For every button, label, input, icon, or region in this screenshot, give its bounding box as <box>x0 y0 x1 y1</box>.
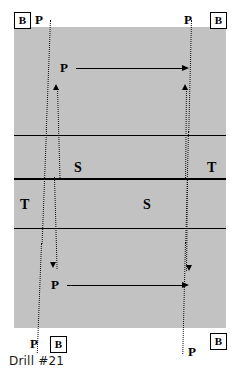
pass-arrow-lower-line <box>67 285 184 286</box>
player-label-top-left: P <box>35 13 43 26</box>
player-label-lower-pass: P <box>51 278 59 291</box>
pass-arrow-upper-line <box>76 68 184 69</box>
zone-line-lower <box>14 228 226 229</box>
run-arrowhead-right-down <box>186 265 192 271</box>
pass-arrow-upper-head <box>182 65 189 71</box>
run-arrowhead-right-up <box>182 84 188 90</box>
run-arrowhead-left-up <box>53 84 59 90</box>
zone-label-s-upper: S <box>74 161 82 175</box>
player-label-bottom-left: P <box>30 337 38 350</box>
player-label-bottom-right: P <box>188 345 196 358</box>
zone-label-s-lower: S <box>143 198 151 212</box>
zone-label-t-upper: T <box>207 161 216 175</box>
base-marker-bottom-left: B <box>50 336 67 353</box>
zone-line-center <box>14 178 226 180</box>
diagram-caption: Drill #21 <box>9 354 64 368</box>
run-arrowhead-left-down <box>50 262 56 268</box>
pass-arrow-lower-head <box>182 282 189 288</box>
zone-label-t-lower: T <box>20 198 29 212</box>
player-label-top-right: P <box>184 13 192 26</box>
player-label-upper-pass: P <box>60 61 68 74</box>
drill-diagram: S T T S P P P P P P B B B B Drill #21 <box>0 0 248 381</box>
base-marker-bottom-right: B <box>210 333 227 350</box>
base-marker-top-right: B <box>210 12 227 29</box>
base-marker-top-left: B <box>14 12 31 29</box>
